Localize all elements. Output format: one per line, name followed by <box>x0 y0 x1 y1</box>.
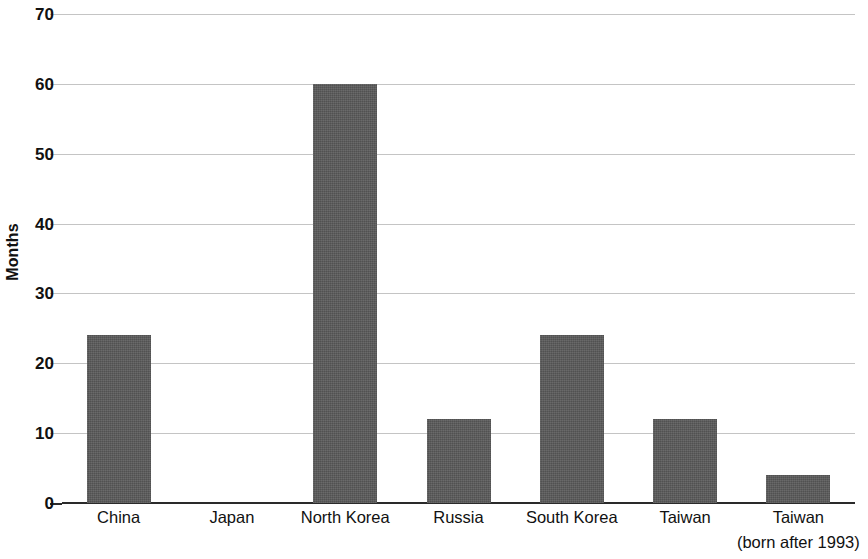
bar-chart: Months 010203040506070 ChinaJapanNorth K… <box>0 0 868 559</box>
category-label-text: South Korea <box>526 508 618 526</box>
y-axis-tick-label: 50 <box>10 145 54 162</box>
category-label-text: Russia <box>433 508 483 526</box>
y-axis-tick-label: 70 <box>10 6 54 23</box>
y-axis-tick-label: 60 <box>10 75 54 92</box>
bar <box>766 475 830 503</box>
bar <box>313 84 377 503</box>
y-axis-tick-label: 10 <box>10 425 54 442</box>
category-label-text: China <box>97 508 140 526</box>
y-axis-tick-labels: 010203040506070 <box>0 0 54 503</box>
category-sublabel-text: (born after 1993) <box>728 530 868 554</box>
bar <box>540 335 604 503</box>
y-axis-tick-label: 20 <box>10 355 54 372</box>
x-axis-category-label: Taiwan(born after 1993) <box>728 505 868 554</box>
y-axis-tick-label: 30 <box>10 285 54 302</box>
category-label-text: Taiwan <box>659 508 710 526</box>
bars-layer <box>62 0 855 503</box>
category-label-text: North Korea <box>301 508 390 526</box>
bar <box>427 419 491 503</box>
category-label-text: Taiwan <box>773 508 824 526</box>
bar <box>653 419 717 503</box>
bar <box>87 335 151 503</box>
category-label-text: Japan <box>209 508 254 526</box>
x-axis-category-labels: ChinaJapanNorth KoreaRussiaSouth KoreaTa… <box>62 505 855 559</box>
y-axis-tick-label: 40 <box>10 215 54 232</box>
